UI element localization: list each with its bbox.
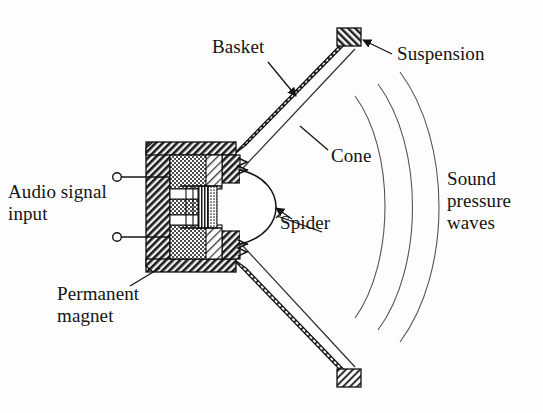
bottom-plate [146,259,236,272]
label-permanent-magnet: Permanent magnet [57,283,139,327]
label-audio-signal-input: Audio signal input [8,181,107,225]
magnet-assembly [146,142,240,272]
label-spider: Spider [280,212,330,234]
top-plate [146,142,236,155]
dust-cap-dome [240,170,276,244]
pole-sleeve-upper [206,155,222,189]
leader-basket [268,62,296,96]
loudspeaker-diagram: Basket Suspension Cone Spider Audio sign… [0,0,543,413]
sound-wave-arc-2 [378,84,413,330]
cone-lower [243,246,355,367]
sound-wave-arc-3 [400,72,439,342]
sound-wave-arc-1 [355,96,385,318]
leader-suspension [363,40,392,54]
suspension-block-lower [337,369,361,387]
front-plate-upper [222,155,240,183]
leader-cone [300,126,328,150]
label-cone: Cone [331,145,372,167]
pole-sleeve-lower [206,225,222,259]
front-plate-lower [222,231,240,259]
label-basket: Basket [212,36,264,58]
voice-coil [198,186,208,228]
basket-lower-arm [232,258,356,382]
sound-wave-arcs [355,72,439,342]
label-suspension: Suspension [397,43,485,65]
back-plate [146,148,170,266]
label-sound-pressure-waves: Sound pressure waves [447,168,511,234]
coil-former [208,186,217,228]
suspension-block-upper [337,28,361,46]
